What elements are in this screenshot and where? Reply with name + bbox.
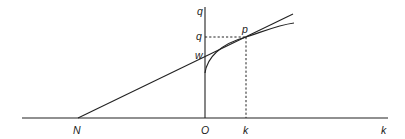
tangent-diagram: q q w p N O k k (0, 0, 405, 139)
tangent-line (78, 14, 293, 118)
label-w: w (195, 49, 204, 61)
curve (205, 23, 294, 73)
label-q-axis: q (197, 5, 203, 17)
label-k-value: k (243, 124, 249, 136)
label-N: N (73, 124, 81, 136)
label-p: p (241, 23, 248, 35)
label-k-axis: k (381, 124, 387, 136)
label-q-value: q (196, 30, 202, 42)
label-O: O (201, 124, 209, 136)
